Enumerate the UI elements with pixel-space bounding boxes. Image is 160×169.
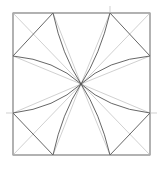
geometric-construction-diagram (0, 0, 160, 169)
ray-right-top (81, 56, 150, 84)
ray-left-bottom (13, 84, 81, 113)
ray-left-top (13, 56, 81, 84)
